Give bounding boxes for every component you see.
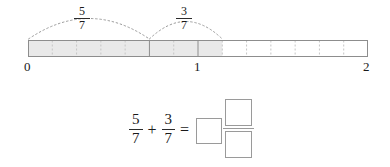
equation-right-fraction: 3 7 xyxy=(162,112,176,147)
left-fraction-numerator: 5 xyxy=(129,112,143,128)
answer-fraction-stack xyxy=(223,99,254,157)
answer-whole-number-input[interactable] xyxy=(196,118,222,144)
arc-label-second-jump: 3 7 xyxy=(176,5,192,31)
arc-second-denominator: 7 xyxy=(176,19,192,31)
right-fraction-numerator: 3 xyxy=(162,112,176,128)
arc-label-first-jump: 5 7 xyxy=(74,5,90,31)
fraction-equation: 5 7 + 3 7 = xyxy=(128,92,254,167)
axis-label-two: 2 xyxy=(363,60,370,73)
answer-denominator-input[interactable] xyxy=(225,131,252,158)
equals-sign: = xyxy=(176,122,193,138)
left-fraction-denominator: 7 xyxy=(129,131,143,147)
answer-fraction-bar xyxy=(223,128,254,129)
number-line-region: 5 7 3 7 0 1 2 xyxy=(0,0,390,80)
answer-numerator-input[interactable] xyxy=(225,99,252,126)
equation-region: 5 7 + 3 7 = xyxy=(0,92,390,167)
fraction-worksheet: 5 7 3 7 0 1 2 5 7 + 3 7 = xyxy=(0,0,390,167)
plus-sign: + xyxy=(144,122,161,138)
arc-first-denominator: 7 xyxy=(74,19,90,31)
equation-left-fraction: 5 7 xyxy=(129,112,143,147)
axis-label-one: 1 xyxy=(194,60,201,73)
arc-second-numerator: 3 xyxy=(176,5,192,17)
right-fraction-denominator: 7 xyxy=(162,131,176,147)
axis-label-zero: 0 xyxy=(24,60,31,73)
arc-first-numerator: 5 xyxy=(74,5,90,17)
